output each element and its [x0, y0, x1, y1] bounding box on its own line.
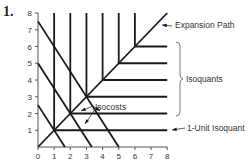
isoquants-bracket [176, 42, 183, 116]
isocost-arrow-left-arrowhead [81, 108, 86, 111]
x-tick-label: 7 [149, 152, 154, 161]
isocost-line [38, 105, 65, 147]
y-tick-label: 8 [28, 9, 33, 18]
isocost-lines [38, 21, 119, 147]
x-tick-label: 3 [84, 152, 89, 161]
y-tick-label: 2 [28, 110, 33, 119]
expansion-path-label: Expansion Path [175, 20, 235, 30]
y-tick-label: 7 [28, 26, 33, 35]
isoquants-label: Isoquants [186, 74, 223, 84]
one-unit-arrow-arrowhead [172, 128, 177, 131]
isocost-line [38, 21, 119, 147]
y-tick-label: 4 [28, 76, 33, 85]
x-tick-label: 6 [133, 152, 138, 161]
one-unit-isoquant-label: 1-Unit Isoquant [187, 123, 245, 133]
x-tick-label: 0 [36, 152, 41, 161]
x-tick-label: 8 [165, 152, 170, 161]
x-tick-label: 2 [68, 152, 73, 161]
isocost-line [38, 63, 92, 147]
x-tick-label: 5 [117, 152, 122, 161]
x-tick-label: 1 [52, 152, 57, 161]
y-tick-label: 3 [28, 93, 33, 102]
y-tick-label: 5 [28, 59, 33, 68]
x-tick-label: 4 [100, 152, 105, 161]
y-tick-label: 1 [28, 126, 33, 135]
y-tick-label: 6 [28, 43, 33, 52]
isoquant-diagram: 01234567812345678 Expansion PathIsoquant… [0, 0, 249, 162]
isocost-arrow-lower-arrowhead [85, 119, 89, 124]
